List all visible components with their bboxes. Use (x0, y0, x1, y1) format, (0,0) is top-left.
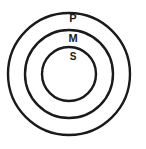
inner-ring-label-s: S (70, 51, 77, 62)
concentric-circles-diagram: P M S (0, 0, 146, 149)
middle-ring-label-m: M (68, 32, 77, 44)
outer-ring-label-p: P (69, 12, 76, 24)
diagram-canvas: P M S (0, 0, 146, 149)
